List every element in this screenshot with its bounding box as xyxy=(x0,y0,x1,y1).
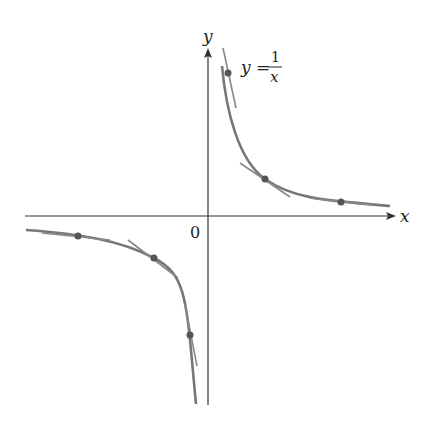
origin-label: 0 xyxy=(190,223,200,242)
curve-positive-branch xyxy=(222,66,390,206)
hyperbola-plot: x y 0 y = 1 x xyxy=(0,0,423,431)
x-axis-label: x xyxy=(400,206,410,226)
tangent-points xyxy=(75,70,345,339)
curve-negative-branch xyxy=(26,230,196,404)
y-axis-label: y xyxy=(202,26,213,46)
function-label-denominator: x xyxy=(270,68,279,86)
tangent-lines xyxy=(42,48,372,366)
function-label-numerator: 1 xyxy=(271,49,280,65)
function-label-lhs: y = xyxy=(240,57,270,77)
